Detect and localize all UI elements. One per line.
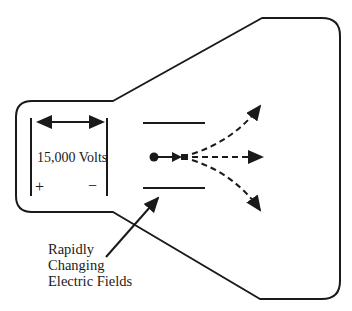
crt-diagram: 15,000 Volts + − Rapidly Changing Electr… [0,0,352,311]
negative-label: − [88,177,97,195]
caption: Rapidly Changing Electric Fields [48,241,132,289]
positive-label: + [35,178,44,196]
voltage-label: 15,000 Volts [37,150,107,166]
beam-block [181,154,188,160]
caption-line-2: Changing [48,257,132,273]
caption-line-3: Electric Fields [48,273,132,289]
caption-line-1: Rapidly [48,241,132,257]
beam-path-up [192,106,260,154]
beam-path-down [192,160,260,210]
